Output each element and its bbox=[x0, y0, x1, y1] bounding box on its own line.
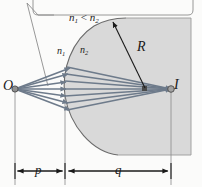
image-distance-label: q bbox=[115, 163, 122, 176]
index-medium-2-label: n2 bbox=[80, 45, 88, 55]
index-medium-1-subscript: 1 bbox=[62, 50, 65, 57]
inequality-operator: < bbox=[78, 11, 90, 23]
object-distance-label: p bbox=[35, 163, 42, 176]
inequality-n1-symbol: n bbox=[69, 11, 75, 23]
radius-label: R bbox=[137, 40, 146, 54]
index-inequality-label: n1 < n2 bbox=[69, 12, 99, 23]
object-point-label: O bbox=[3, 79, 13, 93]
image-point-label: I bbox=[174, 78, 179, 92]
index-medium-1-label: n1 bbox=[57, 46, 65, 56]
figure-canvas bbox=[0, 0, 202, 187]
index-medium-2-subscript: 2 bbox=[85, 49, 88, 56]
optics-refraction-figure: O I R p q n1 n2 n1 < n2 bbox=[0, 0, 202, 187]
inequality-n2-subscript: 2 bbox=[95, 17, 99, 25]
inequality-n1-subscript: 1 bbox=[75, 17, 79, 25]
